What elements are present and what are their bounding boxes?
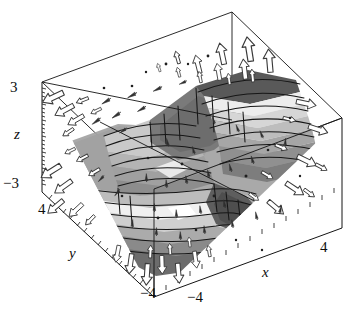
y-axis-title: y bbox=[69, 246, 76, 261]
x-axis-max-tick-label: 4 bbox=[320, 240, 328, 255]
plot-svg bbox=[0, 0, 353, 318]
y-axis-max-tick-label: 4 bbox=[38, 202, 46, 217]
y-axis-min-tick-label: −4 bbox=[140, 286, 156, 301]
z-axis-title: z bbox=[14, 127, 20, 142]
x-axis-title: x bbox=[262, 265, 269, 280]
z-axis-min-tick-label: −3 bbox=[3, 176, 19, 191]
figure-canvas: 3 z −3 4 y −4 −4 x 4 bbox=[0, 0, 353, 318]
x-axis-min-tick-label: −4 bbox=[187, 290, 203, 305]
z-axis-max-tick-label: 3 bbox=[10, 80, 18, 95]
